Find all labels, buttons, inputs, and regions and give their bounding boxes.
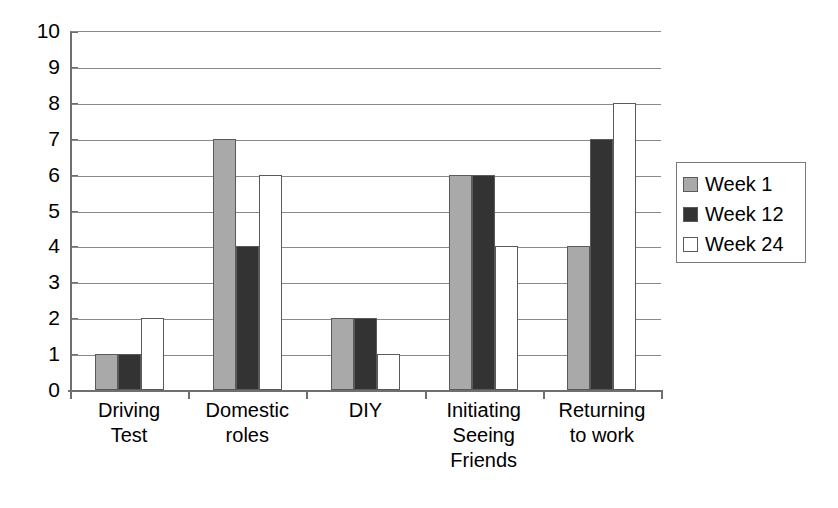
y-tick-label-1: 1: [18, 343, 60, 364]
y-tick-label-3: 3: [18, 271, 60, 292]
bar: [141, 318, 164, 390]
x-axis-label-3: DIY: [306, 398, 424, 423]
bar: [236, 246, 259, 390]
x-axis-label-2: Domestic roles: [188, 398, 306, 448]
legend: Week 1Week 12Week 24: [676, 162, 806, 263]
bar: [259, 175, 282, 390]
legend-swatch-icon: [683, 237, 698, 252]
x-axis-baseline: [68, 390, 663, 392]
bars-layer: [70, 31, 661, 390]
y-tick-label-10: 10: [18, 20, 60, 41]
bar-chart: 012345678910 Week 1Week 12Week 24 Drivin…: [0, 0, 838, 508]
legend-item[interactable]: Week 24: [683, 229, 805, 259]
y-tick-label-2: 2: [18, 307, 60, 328]
legend-label: Week 1: [705, 174, 772, 194]
bar: [331, 318, 354, 390]
bar: [590, 139, 613, 390]
legend-swatch-icon: [683, 207, 698, 222]
bar: [495, 246, 518, 390]
y-tick-label-5: 5: [18, 200, 60, 221]
legend-swatch-icon: [683, 177, 698, 192]
bar: [377, 354, 400, 390]
bar: [613, 103, 636, 390]
x-axis-label-5: Returning to work: [543, 398, 661, 448]
x-axis-label-4: Initiating Seeing Friends: [425, 398, 543, 473]
y-tick-label-6: 6: [18, 164, 60, 185]
bar: [118, 354, 141, 390]
y-tick-label-9: 9: [18, 56, 60, 77]
y-axis: 012345678910: [8, 0, 60, 508]
y-tick-label-4: 4: [18, 235, 60, 256]
legend-item[interactable]: Week 12: [683, 199, 805, 229]
x-tick-mark: [661, 390, 663, 399]
y-tick-label-0: 0: [18, 379, 60, 400]
x-axis-label-1: Driving Test: [70, 398, 188, 448]
y-tick-label-8: 8: [18, 92, 60, 113]
legend-item[interactable]: Week 1: [683, 169, 805, 199]
bar: [213, 139, 236, 390]
legend-label: Week 24: [705, 234, 784, 254]
bar: [567, 246, 590, 390]
legend-label: Week 12: [705, 204, 784, 224]
bar: [354, 318, 377, 390]
bar: [449, 175, 472, 390]
y-tick-label-7: 7: [18, 128, 60, 149]
bar: [95, 354, 118, 390]
bar: [472, 175, 495, 390]
